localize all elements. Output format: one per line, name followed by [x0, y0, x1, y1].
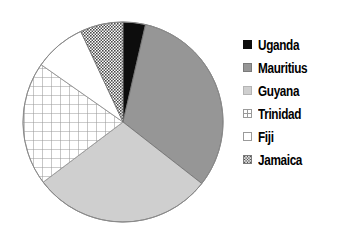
legend-item-jamaica: Jamaica [243, 148, 345, 171]
legend-swatch-light-gray [243, 86, 252, 95]
legend-label-fiji: Fiji [258, 130, 274, 144]
legend-label-trinidad: Trinidad [258, 107, 301, 121]
legend-item-trinidad: Trinidad [243, 102, 345, 125]
legend-label-mauritius: Mauritius [258, 61, 307, 75]
legend-swatch-black [243, 40, 252, 49]
legend-label-uganda: Uganda [258, 38, 299, 52]
legend-swatch-stipple [243, 155, 252, 164]
legend-label-guyana: Guyana [258, 84, 299, 98]
legend-label-jamaica: Jamaica [258, 153, 302, 167]
legend-swatch-mid-gray [243, 63, 252, 72]
legend-item-fiji: Fiji [243, 125, 345, 148]
pie-chart-plot-area [0, 0, 240, 250]
chart-legend: Uganda Mauritius Guyana Trinidad Fiji [243, 33, 345, 178]
legend-item-mauritius: Mauritius [243, 56, 345, 79]
legend-grid-glyph [244, 110, 251, 117]
legend-item-uganda: Uganda [243, 33, 345, 56]
legend-stipple-glyph [244, 156, 251, 163]
legend-swatch-white [243, 132, 252, 141]
pie-chart-figure: Uganda Mauritius Guyana Trinidad Fiji [0, 0, 345, 250]
legend-swatch-grid [243, 109, 252, 118]
legend-item-guyana: Guyana [243, 79, 345, 102]
pie-chart-svg [0, 0, 240, 250]
